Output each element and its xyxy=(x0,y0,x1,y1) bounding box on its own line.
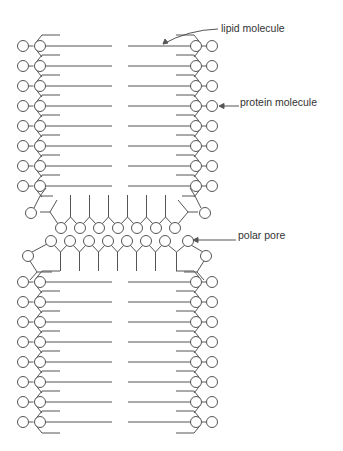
pore-bond xyxy=(159,217,166,224)
head-circle xyxy=(35,101,46,112)
head-circle xyxy=(207,101,218,112)
pore-head-circle xyxy=(151,223,162,234)
head-circle xyxy=(18,81,29,92)
head-circle xyxy=(207,161,218,172)
arrowhead-icon xyxy=(163,39,168,44)
pore-head-circle xyxy=(132,223,143,234)
pore-head-circle xyxy=(65,236,76,247)
head-circle xyxy=(18,41,29,52)
pore-head-circle xyxy=(56,223,67,234)
pore-bond xyxy=(121,217,128,224)
pore-bond xyxy=(61,245,68,252)
head-circle xyxy=(191,277,202,288)
head-circle xyxy=(191,101,202,112)
head-circle xyxy=(18,337,29,348)
head-circle xyxy=(35,277,46,288)
head-circle xyxy=(191,181,202,192)
head-circle xyxy=(18,317,29,328)
head-circle xyxy=(18,277,29,288)
lipid-molecule-label: lipid molecule xyxy=(221,22,285,34)
arrowhead-icon xyxy=(219,104,224,109)
pore-bond xyxy=(140,217,147,224)
pore-head-circle xyxy=(84,236,95,247)
pore-bond xyxy=(111,245,118,252)
head-circle xyxy=(191,417,202,428)
pore-bond xyxy=(71,217,78,224)
head-circle xyxy=(191,297,202,308)
head-circle xyxy=(191,317,202,328)
pore-bond xyxy=(90,217,97,224)
pore-bond xyxy=(83,217,90,224)
head-circle xyxy=(35,81,46,92)
head-circle xyxy=(191,357,202,368)
pore-bond xyxy=(156,245,163,252)
head-circle xyxy=(207,337,218,348)
pore-bond xyxy=(147,217,154,224)
head-circle xyxy=(207,417,218,428)
head-circle xyxy=(207,141,218,152)
head-circle xyxy=(207,297,218,308)
pore-head-circle xyxy=(141,236,152,247)
pore-bond xyxy=(92,245,99,252)
pore-bond xyxy=(54,245,61,252)
head-circle xyxy=(207,181,218,192)
pore-bond xyxy=(177,245,186,252)
pore-head-circle xyxy=(183,236,194,247)
head-circle xyxy=(35,181,46,192)
pore-end-circle xyxy=(26,208,37,219)
head-circle xyxy=(207,317,218,328)
head-circle xyxy=(35,41,46,52)
head-circle xyxy=(18,61,29,72)
pore-bond xyxy=(102,217,109,224)
pore-head-circle xyxy=(46,236,57,247)
pore-bond xyxy=(73,245,80,252)
pore-tail xyxy=(178,200,188,212)
head-circle xyxy=(207,61,218,72)
pore-head-circle xyxy=(103,236,114,247)
pore-bond xyxy=(168,245,177,252)
pore-bond xyxy=(197,261,204,272)
head-circle xyxy=(207,277,218,288)
head-circle xyxy=(35,317,46,328)
head-circle xyxy=(191,337,202,348)
head-circle xyxy=(18,397,29,408)
head-circle xyxy=(18,181,29,192)
head-circle xyxy=(35,61,46,72)
pore-end-circle xyxy=(201,251,212,262)
head-circle xyxy=(18,161,29,172)
head-circle xyxy=(18,297,29,308)
polar-pore-label: polar pore xyxy=(238,229,285,241)
head-circle xyxy=(18,377,29,388)
head-circle xyxy=(207,121,218,132)
pore-bond xyxy=(34,196,40,208)
pore-end-circle xyxy=(200,208,211,219)
pore-head-circle xyxy=(75,223,86,234)
head-circle xyxy=(35,161,46,172)
head-circle xyxy=(191,161,202,172)
head-circle xyxy=(35,397,46,408)
head-circle xyxy=(207,377,218,388)
pore-bond xyxy=(118,245,125,252)
head-circle xyxy=(35,417,46,428)
head-circle xyxy=(191,41,202,52)
pore-bond xyxy=(137,245,144,252)
pore-head-circle xyxy=(170,223,181,234)
pore-head-circle xyxy=(113,223,124,234)
head-circle xyxy=(207,357,218,368)
pore-bond xyxy=(64,217,71,224)
pore-bond xyxy=(80,245,87,252)
pore-bond xyxy=(99,245,106,252)
pore-end-circle xyxy=(23,251,34,262)
head-circle xyxy=(18,417,29,428)
head-circle xyxy=(191,81,202,92)
head-circle xyxy=(18,101,29,112)
head-circle xyxy=(35,121,46,132)
pore-bond xyxy=(50,212,58,224)
pore-bond xyxy=(149,245,156,252)
head-circle xyxy=(35,141,46,152)
pore-head-circle xyxy=(94,223,105,234)
pore-bond xyxy=(178,212,188,224)
head-circle xyxy=(207,397,218,408)
head-circle xyxy=(191,141,202,152)
pore-bond xyxy=(30,261,37,272)
